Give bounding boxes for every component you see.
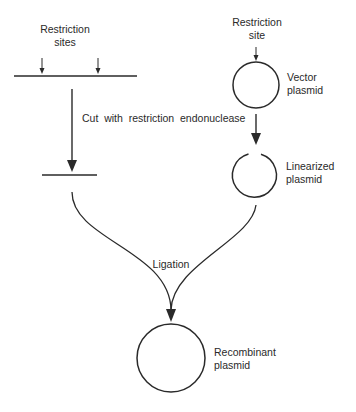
restriction-site-arrow-icon: [40, 58, 45, 74]
recombinant-dna-diagram: Restriction sites Restriction site Vecto…: [0, 0, 356, 412]
restriction-sites-label-line1: Restriction: [40, 23, 90, 35]
insert-dna-group: Restriction sites: [14, 23, 137, 76]
vector-plasmid-label-line2: plasmid: [287, 84, 323, 96]
linearized-plasmid-group: Linearized plasmid: [232, 154, 334, 197]
linearized-plasmid-arc: [232, 154, 276, 197]
restriction-site-label-line1: Restriction: [232, 16, 282, 28]
right-cut-arrow-icon: [251, 114, 261, 145]
vector-plasmid-label-line1: Vector: [287, 71, 317, 83]
restriction-site-arrow-icon: [96, 58, 101, 74]
recombinant-plasmid-label-line1: Recombinant: [214, 346, 276, 358]
vector-plasmid-circle: [233, 62, 279, 108]
cut-step-label: Cut with restriction endonuclease: [82, 112, 246, 124]
linearized-plasmid-label-line1: Linearized: [286, 160, 335, 172]
restriction-site-arrow-icon: [254, 47, 259, 61]
recombinant-plasmid-group: Recombinant plasmid: [137, 324, 276, 392]
ligation-step-label: Ligation: [153, 258, 190, 270]
recombinant-plasmid-label-line2: plasmid: [214, 359, 250, 371]
vector-plasmid-group: Restriction site Vector plasmid: [232, 16, 323, 108]
restriction-site-label-line2: site: [249, 29, 266, 41]
ligation-curves: [72, 192, 256, 322]
restriction-sites-label-line2: sites: [54, 36, 76, 48]
linearized-plasmid-label-line2: plasmid: [286, 173, 322, 185]
recombinant-plasmid-circle: [137, 324, 205, 392]
ligation-arrowhead-icon: [166, 309, 176, 322]
left-cut-arrow-icon: [67, 89, 77, 172]
